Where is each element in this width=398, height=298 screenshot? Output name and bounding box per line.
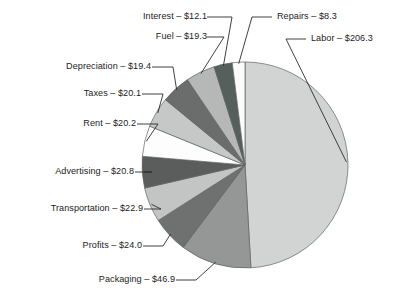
pie-label-taxes: Taxes – $20.1 [31, 88, 141, 99]
pie-label-advertising: Advertising – $20.8 [6, 166, 134, 177]
pie-label-interest: Interest – $12.1 [99, 11, 207, 22]
pie-label-labor: Labor – $206.3 [311, 33, 398, 44]
pie-label-rent: Rent – $20.2 [30, 118, 136, 129]
pie-chart: Interest – $12.1 Fuel – $19.3 Depreciati… [0, 0, 398, 298]
leader-line-profits [143, 234, 171, 246]
pie-label-packaging: Packaging – $46.9 [47, 274, 175, 285]
pie-label-transportation: Transportation – $22.9 [0, 203, 143, 214]
pie-label-depreciation: Depreciation – $19.4 [21, 61, 151, 72]
pie-label-fuel: Fuel – $19.3 [99, 31, 207, 42]
pie-label-repairs: Repairs – $8.3 [277, 11, 393, 22]
pie-slice-labor [245, 62, 348, 268]
pie-chart-canvas [0, 0, 398, 298]
pie-slices-group [142, 62, 348, 268]
leader-line-repairs [239, 17, 272, 64]
pie-label-profits: Profits – $24.0 [30, 240, 142, 251]
leader-line-depreciation [152, 67, 177, 90]
leader-line-packaging [176, 262, 216, 280]
